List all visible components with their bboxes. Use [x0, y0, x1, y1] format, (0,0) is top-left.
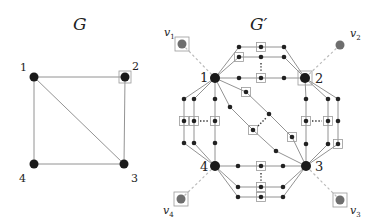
gadget-node [281, 195, 286, 200]
vertex-node [120, 160, 129, 169]
vertex-node [210, 73, 220, 83]
vertex-label: 4 [200, 159, 208, 174]
terminal-node [336, 196, 345, 205]
gadget-node [192, 119, 197, 124]
ellipsis-icon [258, 118, 266, 126]
vertex-label: 3 [315, 159, 323, 174]
edge [246, 92, 269, 114]
gadget-node [192, 141, 197, 146]
graph-g-prime-panel: G′ 1234 v1v2v3v4 [163, 14, 361, 219]
terminal-label: v2 [350, 27, 361, 42]
gadget-node [259, 185, 264, 190]
edge [124, 77, 125, 164]
gadget-node [236, 164, 241, 169]
gadget-node [259, 76, 264, 81]
gadget-node [228, 105, 233, 110]
gadget-node [259, 55, 264, 60]
gadget-node [236, 185, 241, 190]
terminal-label: v1 [164, 26, 175, 41]
gadget-node [259, 164, 264, 169]
gadget-node [274, 149, 279, 154]
graph-g-title: G [73, 14, 87, 34]
edge [215, 166, 238, 197]
gadget-node [326, 97, 331, 102]
edge [284, 47, 305, 78]
terminal-node [177, 195, 186, 204]
vertex-node [30, 160, 39, 169]
vertex-label: 2 [315, 71, 323, 86]
gadget-node [259, 45, 264, 50]
terminal-label: v4 [163, 204, 174, 219]
vertex-node [30, 73, 39, 82]
gadget-node [182, 141, 187, 146]
graph-g-panel: G 1234 [19, 14, 139, 185]
vertex-label: 2 [132, 60, 139, 73]
terminal-dashed-link [182, 44, 215, 78]
edge [269, 114, 292, 137]
gadget-node [326, 119, 331, 124]
gadget-node [282, 55, 287, 60]
graph-g-nodes: 1234 [19, 60, 139, 185]
gadget-node [237, 76, 242, 81]
gadget-node [290, 135, 295, 140]
gadget-node [304, 119, 309, 124]
gadget-node [267, 112, 272, 117]
vertex-label: 4 [19, 172, 26, 185]
graph-reduction-figure: G 1234 G′ 1234 v1v2v3v4 [0, 0, 374, 224]
gadget-node [251, 128, 256, 133]
gadget-node [336, 119, 341, 124]
vertex-label: 1 [20, 61, 27, 74]
edge [34, 77, 124, 164]
edge [283, 166, 306, 197]
gadget-node [336, 97, 341, 102]
vertex-node [300, 73, 310, 83]
gadget-node [336, 142, 341, 147]
gadget-node [213, 97, 218, 102]
gadget-node [244, 90, 249, 95]
graph-g-edges [34, 77, 125, 164]
terminal-dashed-link [181, 166, 215, 199]
gadget-node [326, 142, 331, 147]
gadget-node [182, 119, 187, 124]
gadget-node [281, 164, 286, 169]
gadget-node [237, 45, 242, 50]
gadget-node [237, 55, 242, 60]
vertex-node [301, 161, 311, 171]
vertex-node [121, 73, 130, 82]
graph-g-prime-title: G′ [250, 14, 268, 34]
gadget-node [182, 97, 187, 102]
gadget-node [282, 45, 287, 50]
gadget-node [192, 97, 197, 102]
gadget-node [236, 195, 241, 200]
terminal-node [336, 41, 345, 50]
gadget-node [213, 119, 218, 124]
gadget-node [282, 76, 287, 81]
gadget-node [304, 97, 309, 102]
vertex-label: 1 [200, 70, 208, 85]
terminal-node [178, 40, 187, 49]
gadget-node [281, 185, 286, 190]
gadget-node [259, 195, 264, 200]
vertex-label: 3 [131, 172, 138, 185]
terminal-label: v3 [350, 204, 361, 219]
edge [215, 47, 239, 78]
gadget-node [304, 142, 309, 147]
edge [230, 107, 253, 130]
edge [253, 130, 276, 151]
edge [276, 151, 306, 166]
gadget-node [213, 141, 218, 146]
vertex-node [210, 161, 220, 171]
